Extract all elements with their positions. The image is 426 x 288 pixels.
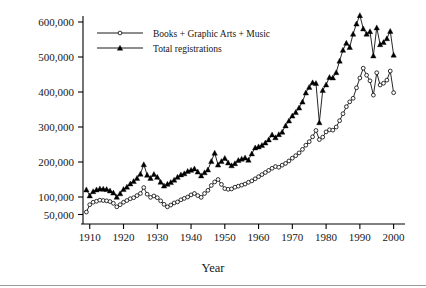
data-point-marker [286, 118, 291, 123]
data-point-marker [323, 82, 328, 87]
data-point-marker [382, 81, 386, 85]
data-point-marker [206, 188, 210, 192]
data-point-marker [84, 210, 88, 214]
data-point-marker [385, 78, 389, 82]
data-point-marker [242, 155, 247, 160]
x-tick-label: 1970 [281, 231, 304, 243]
data-point-marker [334, 125, 338, 129]
data-point-marker [297, 151, 301, 155]
data-point-marker [199, 195, 203, 199]
data-point-marker [374, 25, 379, 30]
data-point-marker [340, 47, 345, 52]
data-point-marker [321, 135, 325, 139]
data-point-marker [334, 70, 339, 75]
data-point-marker [249, 151, 254, 156]
legend-label: Books + Graphic Arts + Music [153, 29, 270, 39]
data-point-marker [357, 13, 362, 18]
data-point-marker [284, 162, 288, 166]
x-tick-label: 1990 [349, 231, 372, 243]
data-point-marker [296, 105, 301, 110]
data-point-marker [314, 129, 318, 133]
data-point-marker [304, 143, 308, 147]
data-point-marker [138, 192, 142, 196]
data-point-marker [118, 203, 122, 207]
data-point-marker [294, 154, 298, 158]
data-point-marker [287, 159, 291, 163]
data-point-marker [205, 167, 210, 172]
data-point-marker [111, 201, 115, 205]
data-point-marker [320, 88, 325, 93]
data-point-marker [344, 40, 349, 45]
data-point-marker [162, 202, 166, 206]
data-point-marker [384, 36, 389, 41]
series-books-graphic-arts-music [84, 66, 395, 214]
x-tick-label: 1940 [180, 231, 203, 243]
data-point-marker [371, 53, 376, 58]
data-point-marker [283, 123, 288, 128]
data-point-marker [192, 166, 197, 171]
data-point-marker [317, 138, 321, 142]
legend-label: Total registrations [153, 44, 222, 54]
data-point-marker [158, 179, 163, 184]
data-point-marker [365, 73, 369, 77]
data-point-marker [348, 100, 352, 104]
data-point-marker [361, 26, 366, 31]
open-circle-marker [118, 31, 122, 35]
data-point-marker [392, 91, 396, 95]
y-tick-label: 400,000 [38, 86, 74, 98]
data-point-marker [155, 196, 159, 200]
data-point-marker [222, 155, 227, 160]
figure-panel: 50,000100,000200,000300,000400,000500,00… [0, 0, 426, 288]
data-point-marker [203, 192, 207, 196]
data-point-marker [290, 156, 294, 160]
page-bottom-rule [0, 285, 426, 286]
registrations-line-chart: 50,000100,000200,000300,000400,000500,00… [0, 0, 426, 288]
y-tick-label: 100,000 [38, 191, 74, 203]
data-point-marker [300, 99, 305, 104]
data-point-marker [375, 71, 379, 75]
legend-entry: Books + Graphic Arts + Music [97, 29, 270, 39]
data-point-marker [138, 171, 143, 176]
data-point-marker [301, 148, 305, 152]
x-tick-label: 1930 [146, 231, 169, 243]
y-tick-label: 500,000 [38, 51, 74, 63]
legend-entry: Total registrations [97, 44, 222, 54]
data-point-marker [361, 66, 365, 70]
data-point-marker [338, 119, 342, 123]
data-point-marker [367, 29, 372, 34]
data-point-marker [209, 159, 214, 164]
series-path [86, 68, 393, 212]
y-tick-label: 200,000 [38, 156, 74, 168]
data-point-marker [391, 52, 396, 57]
data-point-marker [159, 199, 163, 203]
data-series [84, 13, 397, 214]
data-point-marker [142, 186, 146, 190]
data-point-marker [331, 128, 335, 132]
data-point-marker [337, 58, 342, 63]
data-point-marker [354, 21, 359, 26]
data-point-marker [388, 69, 392, 73]
x-axis-title: Year [201, 261, 225, 275]
y-tick-label: 600,000 [38, 16, 74, 28]
x-tick-label: 1950 [214, 231, 237, 243]
data-point-marker [212, 150, 217, 155]
data-point-marker [368, 79, 372, 83]
data-point-marker [269, 132, 274, 137]
data-point-marker [311, 135, 315, 139]
data-point-marker [371, 93, 375, 97]
y-tick-label: 50,000 [44, 209, 75, 221]
data-point-marker [216, 178, 220, 182]
data-point-marker [307, 140, 311, 144]
data-point-marker [209, 184, 213, 188]
data-point-marker [145, 192, 149, 196]
data-point-marker [358, 76, 362, 80]
data-point-marker [280, 129, 285, 134]
chart-legend: Books + Graphic Arts + MusicTotal regist… [97, 29, 270, 54]
x-tick-label: 1920 [113, 231, 136, 243]
data-point-marker [88, 203, 92, 207]
y-tick-label: 300,000 [38, 121, 74, 133]
data-point-marker [151, 172, 156, 177]
x-tick-label: 1960 [248, 231, 271, 243]
data-point-marker [388, 28, 393, 33]
data-point-marker [355, 86, 359, 90]
